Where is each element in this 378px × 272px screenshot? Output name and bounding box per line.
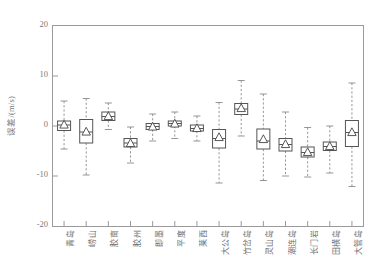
x-tick-label: 平度 (178, 230, 186, 247)
x-tick-label: 大公岛 (222, 230, 230, 255)
plot-area (52, 25, 364, 227)
y-axis-tick-labels: 20100-10-20 (18, 0, 48, 272)
y-axis-title: 误差/(m/s) (2, 0, 18, 232)
boxplot-group (102, 103, 115, 130)
y-axis-title-text: 误差/(m/s) (4, 96, 16, 136)
y-tick-label: 20 (22, 20, 48, 29)
boxplot-group (58, 101, 71, 149)
boxplot-group (190, 116, 203, 141)
x-tick-label: 即墨 (156, 230, 164, 247)
x-tick-label: 竹岔岛 (244, 230, 252, 255)
boxplot-group (257, 94, 270, 181)
boxplot-chart: 误差/(m/s) 20100-10-20 青岛崂山胶南胶州即墨平度莱西大公岛竹岔… (0, 0, 378, 272)
boxplot-group (279, 112, 292, 176)
boxplot-group (323, 126, 336, 173)
x-tick-label: 青岛 (67, 230, 75, 247)
boxplot-group (235, 81, 248, 137)
x-tick-label: 大管岛 (355, 230, 363, 255)
x-tick-label: 田横岛 (333, 230, 341, 255)
x-tick-label: 崂山 (89, 230, 97, 247)
boxplot-group (146, 114, 159, 141)
y-tick-label: -10 (22, 170, 48, 179)
x-tick-label: 潮连岛 (289, 230, 297, 255)
y-tick-label: 10 (22, 70, 48, 79)
boxplot-group (213, 103, 226, 184)
x-axis-tick-labels: 青岛崂山胶南胶州即墨平度莱西大公岛竹岔岛灵山岛潮连岛长门岩田横岛大管岛 (52, 229, 364, 272)
boxplot-group (124, 127, 137, 163)
boxplot-series (53, 26, 363, 226)
boxplot-group (345, 83, 358, 187)
x-tick-label: 胶州 (134, 230, 142, 247)
boxplot-group (301, 128, 314, 178)
y-tick-label: 0 (22, 120, 48, 129)
y-tick-label: -20 (22, 220, 48, 229)
x-tick-label: 灵山岛 (266, 230, 274, 255)
x-tick-label: 胶南 (111, 230, 119, 247)
boxplot-group (168, 112, 181, 139)
x-tick-label: 莱西 (200, 230, 208, 247)
x-tick-label: 长门岩 (311, 230, 319, 255)
boxplot-group (80, 99, 93, 176)
